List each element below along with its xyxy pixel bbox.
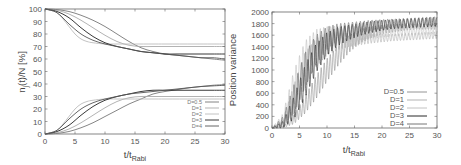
right-y-label: Position variance [227,34,238,106]
y-tick-label: 800 [256,78,270,87]
y-tick-label: 20 [33,105,42,114]
left-legend: D=0.5D=1D=2D=3D=4 [187,99,219,129]
legend-label: D=4 [390,119,404,128]
x-tick-label: 15 [350,131,359,140]
series-line-upper-D-4 [45,9,225,59]
y-tick-label: 1600 [251,31,269,40]
y-tick-label: 600 [256,89,270,98]
right-series-lines [272,17,437,128]
left-chart: 051015202530 0102030405060708090100 t/tR… [16,5,230,162]
figure: 051015202530 0102030405060708090100 t/tR… [0,0,461,165]
x-tick-label: 30 [433,131,442,140]
y-tick-label: 0 [38,130,43,139]
x-tick-label: 10 [101,137,110,146]
y-tick-label: 80 [33,30,42,39]
y-tick-label: 90 [33,18,42,27]
series-line-upper-D-0-5 [45,9,225,60]
x-tick-label: 20 [161,137,170,146]
y-tick-label: 0 [265,124,270,133]
y-tick-label: 100 [29,5,43,14]
y-tick-label: 30 [33,93,42,102]
y-tick-label: 1200 [251,54,269,63]
y-tick-label: 1000 [251,66,269,75]
y-tick-label: 2000 [251,8,269,17]
x-tick-label: 30 [221,137,230,146]
right-x-label: t/tRabi [343,144,366,157]
right-legend: D=0.5D=1D=2D=3D=4 [384,87,427,128]
y-tick-label: 70 [33,43,42,52]
y-tick-label: 40 [33,80,42,89]
x-tick-label: 10 [323,131,332,140]
x-tick-label: 25 [405,131,414,140]
x-tick-label: 0 [270,131,275,140]
x-tick-label: 0 [43,137,48,146]
y-tick-label: 1800 [251,20,269,29]
x-tick-label: 25 [191,137,200,146]
left-x-label: t/tRabi [124,149,147,162]
x-tick-label: 20 [378,131,387,140]
y-tick-label: 400 [256,101,270,110]
legend-label: D=4 [192,123,202,129]
right-chart: 051015202530 020040060080010001200140016… [227,8,442,157]
x-tick-label: 5 [73,137,78,146]
y-tick-label: 50 [33,68,42,77]
y-tick-label: 200 [256,112,270,121]
series-line-upper-D-1 [45,9,225,47]
y-tick-label: 1400 [251,43,269,52]
y-tick-label: 60 [33,55,42,64]
x-tick-label: 15 [131,137,140,146]
x-tick-label: 5 [297,131,302,140]
left-y-label: nj(t)/N [%] [16,51,30,93]
y-tick-label: 10 [33,118,42,127]
